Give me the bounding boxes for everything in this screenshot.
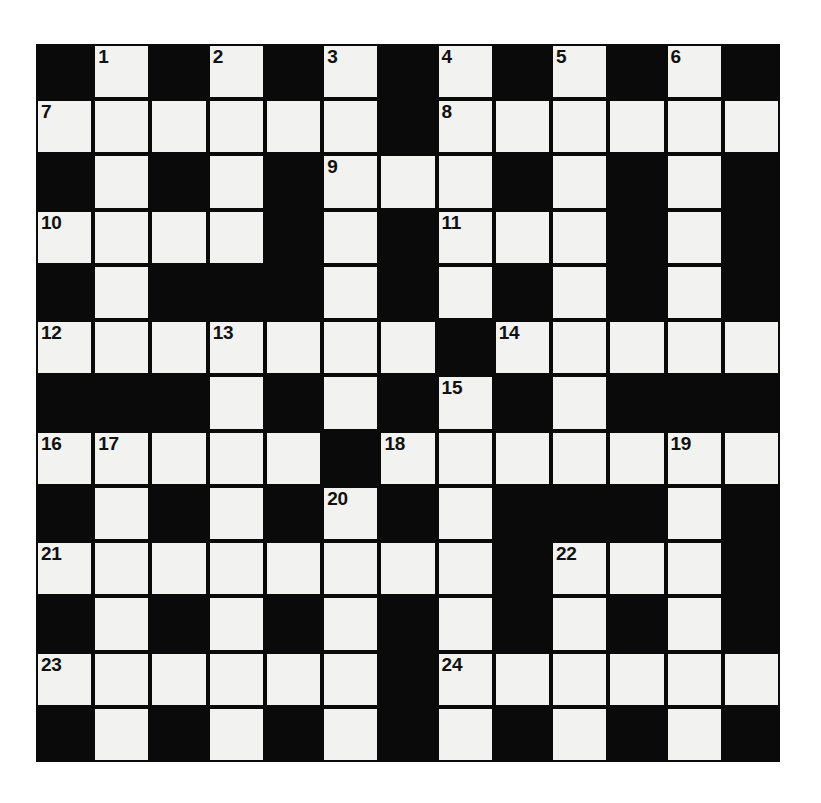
- crossword-cell[interactable]: [666, 265, 723, 320]
- crossword-cell[interactable]: 22: [551, 541, 608, 596]
- crossword-cell[interactable]: 17: [93, 431, 150, 486]
- crossword-cell[interactable]: 21: [36, 541, 93, 596]
- crossword-cell[interactable]: [551, 707, 608, 762]
- crossword-cell[interactable]: [265, 652, 322, 707]
- crossword-cell[interactable]: [322, 541, 379, 596]
- crossword-cell[interactable]: 9: [322, 154, 379, 209]
- crossword-cell[interactable]: [93, 320, 150, 375]
- crossword-cell[interactable]: [551, 596, 608, 651]
- crossword-cell[interactable]: [93, 154, 150, 209]
- crossword-cell[interactable]: [208, 99, 265, 154]
- crossword-cell[interactable]: [494, 210, 551, 265]
- crossword-cell[interactable]: 18: [379, 431, 436, 486]
- crossword-cell[interactable]: [322, 320, 379, 375]
- crossword-cell[interactable]: [608, 99, 665, 154]
- crossword-cell[interactable]: [265, 320, 322, 375]
- crossword-cell[interactable]: [666, 596, 723, 651]
- crossword-cell[interactable]: [150, 320, 207, 375]
- crossword-cell[interactable]: [666, 320, 723, 375]
- crossword-cell[interactable]: [437, 265, 494, 320]
- crossword-cell[interactable]: 5: [551, 44, 608, 99]
- crossword-cell[interactable]: [666, 652, 723, 707]
- crossword-cell[interactable]: 15: [437, 375, 494, 430]
- crossword-cell[interactable]: 24: [437, 652, 494, 707]
- crossword-cell[interactable]: [608, 431, 665, 486]
- crossword-cell[interactable]: [208, 596, 265, 651]
- crossword-cell[interactable]: 10: [36, 210, 93, 265]
- crossword-cell[interactable]: [437, 486, 494, 541]
- crossword-cell[interactable]: [666, 707, 723, 762]
- crossword-cell[interactable]: [265, 99, 322, 154]
- crossword-cell[interactable]: [208, 210, 265, 265]
- crossword-cell[interactable]: [608, 320, 665, 375]
- crossword-cell[interactable]: [265, 431, 322, 486]
- crossword-cell[interactable]: [723, 431, 780, 486]
- crossword-cell[interactable]: [93, 596, 150, 651]
- crossword-cell[interactable]: 11: [437, 210, 494, 265]
- crossword-cell[interactable]: [93, 707, 150, 762]
- crossword-cell[interactable]: [437, 541, 494, 596]
- crossword-cell[interactable]: [723, 320, 780, 375]
- crossword-cell[interactable]: [437, 707, 494, 762]
- crossword-cell[interactable]: [379, 320, 436, 375]
- crossword-cell[interactable]: [150, 541, 207, 596]
- crossword-cell[interactable]: [322, 596, 379, 651]
- crossword-cell[interactable]: [265, 541, 322, 596]
- crossword-cell[interactable]: [208, 154, 265, 209]
- crossword-cell[interactable]: [666, 486, 723, 541]
- crossword-cell[interactable]: [723, 652, 780, 707]
- crossword-cell[interactable]: [93, 652, 150, 707]
- crossword-cell[interactable]: [150, 99, 207, 154]
- crossword-cell[interactable]: [322, 99, 379, 154]
- crossword-cell[interactable]: 13: [208, 320, 265, 375]
- crossword-cell[interactable]: 16: [36, 431, 93, 486]
- crossword-cell[interactable]: [208, 652, 265, 707]
- crossword-cell[interactable]: 20: [322, 486, 379, 541]
- crossword-cell[interactable]: [437, 154, 494, 209]
- crossword-cell[interactable]: 6: [666, 44, 723, 99]
- crossword-cell[interactable]: [551, 375, 608, 430]
- crossword-cell[interactable]: [551, 652, 608, 707]
- crossword-cell[interactable]: [93, 541, 150, 596]
- crossword-cell[interactable]: [322, 652, 379, 707]
- crossword-cell[interactable]: 14: [494, 320, 551, 375]
- crossword-cell[interactable]: [494, 652, 551, 707]
- crossword-cell[interactable]: [666, 99, 723, 154]
- crossword-cell[interactable]: [93, 486, 150, 541]
- crossword-cell[interactable]: [208, 541, 265, 596]
- crossword-cell[interactable]: [322, 210, 379, 265]
- crossword-cell[interactable]: [93, 265, 150, 320]
- crossword-cell[interactable]: [666, 210, 723, 265]
- crossword-cell[interactable]: [322, 265, 379, 320]
- crossword-cell[interactable]: [379, 541, 436, 596]
- crossword-cell[interactable]: [93, 210, 150, 265]
- crossword-cell[interactable]: [208, 375, 265, 430]
- crossword-cell[interactable]: [150, 210, 207, 265]
- crossword-cell[interactable]: [379, 154, 436, 209]
- crossword-cell[interactable]: [437, 431, 494, 486]
- crossword-cell[interactable]: [551, 210, 608, 265]
- crossword-cell[interactable]: [551, 265, 608, 320]
- crossword-cell[interactable]: 3: [322, 44, 379, 99]
- crossword-cell[interactable]: [322, 707, 379, 762]
- crossword-cell[interactable]: 12: [36, 320, 93, 375]
- crossword-cell[interactable]: [150, 431, 207, 486]
- crossword-cell[interactable]: 7: [36, 99, 93, 154]
- crossword-cell[interactable]: 19: [666, 431, 723, 486]
- crossword-cell[interactable]: [93, 99, 150, 154]
- crossword-grid[interactable]: 123456789101112131415161718192021222324: [36, 44, 780, 762]
- crossword-cell[interactable]: [494, 431, 551, 486]
- crossword-cell[interactable]: [494, 99, 551, 154]
- crossword-cell[interactable]: [608, 652, 665, 707]
- crossword-cell[interactable]: [551, 320, 608, 375]
- crossword-cell[interactable]: [551, 154, 608, 209]
- crossword-cell[interactable]: 1: [93, 44, 150, 99]
- crossword-cell[interactable]: [666, 154, 723, 209]
- crossword-cell[interactable]: [150, 652, 207, 707]
- crossword-cell[interactable]: 23: [36, 652, 93, 707]
- crossword-cell[interactable]: [551, 99, 608, 154]
- crossword-cell[interactable]: 2: [208, 44, 265, 99]
- crossword-cell[interactable]: [208, 486, 265, 541]
- crossword-cell[interactable]: [723, 99, 780, 154]
- crossword-cell[interactable]: [437, 596, 494, 651]
